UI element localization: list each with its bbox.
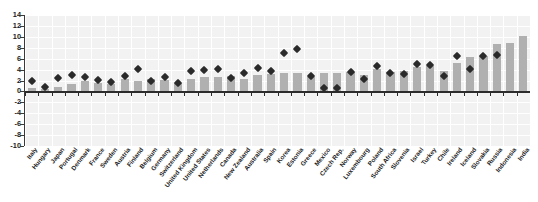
data-point-marker	[280, 49, 288, 57]
gridline-vertical	[118, 15, 119, 146]
gridline-vertical	[158, 15, 159, 146]
bar	[267, 74, 275, 91]
gridline-vertical	[464, 15, 465, 146]
x-axis-tick-mark	[184, 92, 185, 96]
x-axis-tick-mark	[91, 92, 92, 96]
data-point-marker	[293, 45, 301, 53]
gridline-vertical	[503, 15, 504, 146]
gridline-vertical	[357, 15, 358, 146]
bar	[280, 73, 288, 92]
bar	[413, 67, 421, 92]
x-axis-tick-mark	[477, 92, 478, 96]
bar	[94, 83, 102, 91]
data-point-marker	[187, 67, 195, 75]
x-axis-tick-mark	[464, 92, 465, 96]
gridline-vertical	[291, 15, 292, 146]
x-axis-tick-mark	[65, 92, 66, 96]
x-axis-tick-mark	[331, 92, 332, 96]
gridline-vertical	[304, 15, 305, 146]
x-axis-tick-mark	[304, 92, 305, 96]
x-axis-tick-mark	[211, 92, 212, 96]
x-axis-tick-mark	[118, 92, 119, 96]
gridline-vertical	[198, 15, 199, 146]
bar	[121, 79, 129, 91]
bar	[214, 77, 222, 92]
bar	[506, 43, 514, 91]
gridline-vertical	[384, 15, 385, 146]
x-axis-tick-mark	[278, 92, 279, 96]
gridline-vertical	[65, 15, 66, 146]
y-axis: 14121086420-2-4-6-8-10	[0, 0, 25, 202]
gridline-vertical	[211, 15, 212, 146]
bar	[426, 66, 434, 92]
x-axis-tick-mark	[503, 92, 504, 96]
x-axis-tick-mark	[371, 92, 372, 96]
x-axis-tick-mark	[78, 92, 79, 96]
x-axis-tick-mark	[105, 92, 106, 96]
bar	[293, 73, 301, 92]
gridline-vertical	[410, 15, 411, 146]
bar	[253, 75, 261, 91]
gridline-vertical	[184, 15, 185, 146]
data-point-marker	[253, 64, 261, 72]
chart-figure: 14121086420-2-4-6-8-10 ItalyHungaryJapan…	[0, 0, 538, 202]
x-axis-tick-mark	[198, 92, 199, 96]
gridline-vertical	[477, 15, 478, 146]
gridline-vertical	[264, 15, 265, 146]
x-axis-tick-mark	[517, 92, 518, 96]
chart-title-strip	[0, 0, 538, 9]
gridline-vertical	[517, 15, 518, 146]
y-axis-tick-mark	[20, 146, 24, 147]
x-axis-tick-mark	[224, 92, 225, 96]
x-axis-tick-mark	[490, 92, 491, 96]
gridline-vertical	[344, 15, 345, 146]
gridline-vertical	[490, 15, 491, 146]
gridline-vertical	[331, 15, 332, 146]
x-axis-tick-mark	[25, 92, 26, 96]
x-axis-label-text: India	[516, 146, 531, 162]
x-axis-tick-mark	[52, 92, 53, 96]
x-axis-tick-mark	[251, 92, 252, 96]
gridline-vertical	[145, 15, 146, 146]
gridline-vertical	[38, 15, 39, 146]
gridline-vertical	[25, 15, 26, 146]
gridline-vertical	[251, 15, 252, 146]
data-point-marker	[27, 77, 35, 85]
gridline-vertical	[450, 15, 451, 146]
data-point-marker	[134, 65, 142, 73]
x-axis-tick-mark	[450, 92, 451, 96]
x-axis-tick-mark	[131, 92, 132, 96]
gridline-vertical	[78, 15, 79, 146]
gridline-vertical	[278, 15, 279, 146]
x-axis-tick-mark	[437, 92, 438, 96]
bar	[519, 36, 527, 92]
x-axis-tick-mark	[238, 92, 239, 96]
gridline-vertical	[171, 15, 172, 146]
bar	[200, 77, 208, 91]
gridline-vertical	[437, 15, 438, 146]
x-axis-tick-mark	[384, 92, 385, 96]
gridline-vertical	[238, 15, 239, 146]
gridline-vertical	[105, 15, 106, 146]
bar	[187, 79, 195, 92]
bar	[134, 81, 142, 91]
x-axis-tick-mark	[424, 92, 425, 96]
bar	[373, 69, 381, 91]
x-axis-tick-mark	[291, 92, 292, 96]
bar	[466, 57, 474, 91]
x-axis-tick-mark	[344, 92, 345, 96]
gridline-vertical	[397, 15, 398, 146]
data-point-marker	[200, 66, 208, 74]
bar	[67, 84, 75, 92]
x-axis-tick-mark	[397, 92, 398, 96]
x-axis-tick-mark	[38, 92, 39, 96]
x-axis-tick-mark	[171, 92, 172, 96]
x-axis-tick-mark	[264, 92, 265, 96]
bar	[81, 81, 89, 91]
gridline-vertical	[317, 15, 318, 146]
gridline-vertical	[52, 15, 53, 146]
gridline-vertical	[224, 15, 225, 146]
bar	[453, 63, 461, 91]
bar	[240, 79, 248, 92]
gridline-vertical	[131, 15, 132, 146]
